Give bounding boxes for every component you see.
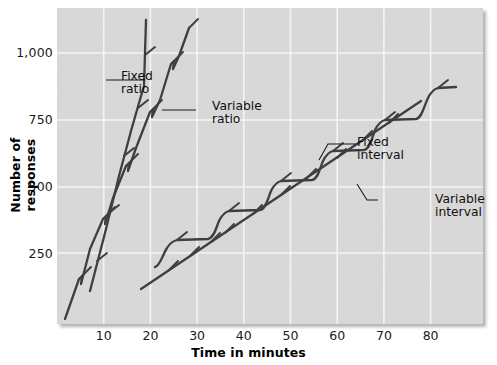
x-tick-60: 60: [317, 328, 357, 343]
x-tick-30: 30: [177, 328, 217, 343]
x-axis-tick-labels: 10 20 30 40 50 60 70 80: [0, 328, 497, 346]
annotation-variable-ratio-line2: ratio: [212, 112, 240, 126]
x-tick-10: 10: [84, 328, 124, 343]
plot-svg: [57, 8, 483, 324]
annotation-fixed-ratio-line2: ratio: [121, 82, 149, 96]
annotation-fixed-interval-line2: interval: [357, 148, 404, 162]
annotation-fixed-ratio: Fixedratio: [121, 70, 153, 95]
x-tick-80: 80: [411, 328, 451, 343]
y-tick-250: 250: [5, 246, 53, 261]
x-axis-title: Time in minutes: [0, 345, 497, 360]
x-tick-40: 40: [224, 328, 264, 343]
annotation-fixed-interval: Fixedinterval: [357, 136, 404, 161]
y-tick-1000: 1,000: [5, 45, 53, 60]
y-axis-title: Number of responses: [8, 105, 38, 245]
x-tick-70: 70: [364, 328, 404, 343]
annotation-variable-ratio: Variableratio: [212, 100, 262, 125]
x-tick-20: 20: [130, 328, 170, 343]
plot-area: Fixedratio Variableratio Fixedinterval V…: [57, 8, 483, 324]
x-tick-50: 50: [271, 328, 311, 343]
cumulative-response-chart-figure: 1,000 750 500 250 Number of responses: [0, 0, 497, 365]
annotation-variable-interval: Variableinterval: [435, 193, 485, 218]
annotation-variable-interval-line2: interval: [435, 205, 482, 219]
